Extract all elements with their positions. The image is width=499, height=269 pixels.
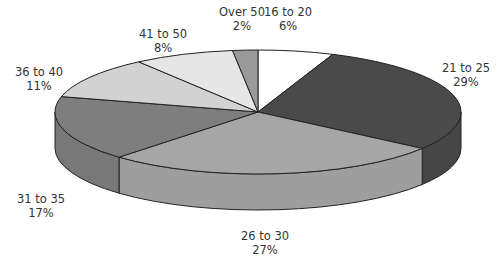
label-name: 41 to 50 xyxy=(139,27,187,41)
label-name: 26 to 30 xyxy=(241,229,289,243)
label-pct: 11% xyxy=(15,79,63,93)
label-name: 16 to 20 xyxy=(264,5,312,19)
label-pct: 6% xyxy=(264,19,312,33)
label-36-40: 36 to 40 11% xyxy=(15,65,63,93)
label-pct: 17% xyxy=(17,206,65,220)
label-name: 21 to 25 xyxy=(442,61,490,75)
label-name: Over 50 xyxy=(219,5,265,19)
label-pct: 29% xyxy=(442,75,490,89)
label-name: 36 to 40 xyxy=(15,65,63,79)
label-pct: 27% xyxy=(241,243,289,257)
label-31-35: 31 to 35 17% xyxy=(17,192,65,220)
label-41-50: 41 to 50 8% xyxy=(139,27,187,55)
label-over-50: Over 50 2% xyxy=(219,5,265,33)
label-26-30: 26 to 30 27% xyxy=(241,229,289,257)
label-16-20: 16 to 20 6% xyxy=(264,5,312,33)
label-21-25: 21 to 25 29% xyxy=(442,61,490,89)
label-name: 31 to 35 xyxy=(17,192,65,206)
label-pct: 2% xyxy=(219,19,265,33)
label-pct: 8% xyxy=(139,41,187,55)
